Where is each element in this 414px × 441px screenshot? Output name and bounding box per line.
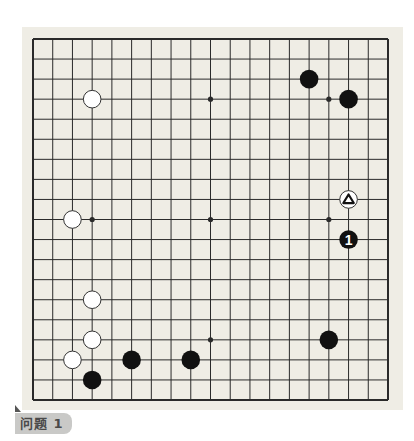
black-stone — [320, 331, 339, 350]
black-stone: 1 — [339, 230, 358, 249]
white-stone — [83, 331, 101, 349]
go-board-grid[interactable]: 1 — [0, 0, 414, 441]
black-stone — [83, 371, 102, 390]
star-point — [208, 217, 213, 222]
corner-mark-icon — [15, 405, 21, 412]
problem-label: 问题 1 — [15, 413, 72, 434]
white-stone — [340, 191, 358, 209]
move-number: 1 — [345, 232, 353, 248]
black-stone — [181, 351, 200, 370]
star-point — [326, 97, 331, 102]
white-stone — [64, 211, 82, 229]
problem-tab: 问题 1 — [15, 405, 75, 435]
white-stone — [64, 351, 82, 369]
white-stone — [83, 291, 101, 309]
star-point — [326, 217, 331, 222]
star-point — [208, 97, 213, 102]
black-stone — [122, 351, 141, 370]
star-point — [90, 217, 95, 222]
black-stone — [339, 90, 358, 109]
black-stone — [300, 70, 319, 89]
star-point — [208, 337, 213, 342]
white-stone — [83, 90, 101, 108]
